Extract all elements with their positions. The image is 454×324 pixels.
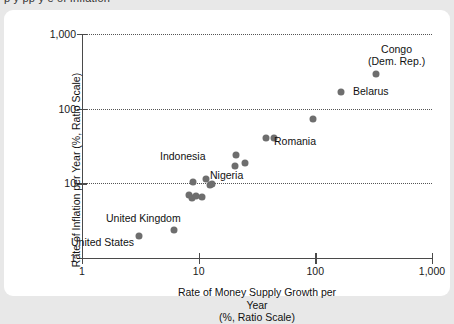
data-point xyxy=(190,178,197,185)
x-axis-title-line1: Rate of Money Supply Growth per Year xyxy=(178,286,336,311)
data-point xyxy=(310,116,317,123)
ytick-label-1: 1 xyxy=(16,252,76,264)
data-point xyxy=(337,88,344,95)
clipped-title: p y pp y e of Inflation xyxy=(0,0,454,6)
x-axis-title-line2: (%, Ratio Scale) xyxy=(170,311,345,324)
point-label-indonesia: Indonesia xyxy=(160,151,206,163)
xtick-label-1000: 1,000 xyxy=(419,265,445,277)
point-label-congo-line1: Congo xyxy=(381,43,412,55)
xtick-mark-1000 xyxy=(432,253,433,264)
data-point xyxy=(233,151,240,158)
ytick-label-1000: 1,000 xyxy=(16,28,76,40)
data-point xyxy=(198,194,205,201)
point-label-belarus: Belarus xyxy=(353,86,389,98)
y-axis-title: Rate of Inflation per Year (%, Ratio Sca… xyxy=(70,73,82,267)
data-point xyxy=(208,180,215,187)
point-label-congo: Congo (Dem. Rep.) xyxy=(368,44,425,67)
ytick-label-100: 100 xyxy=(16,103,76,115)
gridline-100 xyxy=(82,109,432,110)
point-label-nigeria: Nigeria xyxy=(210,170,243,182)
data-point xyxy=(136,232,143,239)
data-point xyxy=(372,70,379,77)
xtick-label-100: 100 xyxy=(307,265,325,277)
ytick-label-10: 10 xyxy=(16,177,76,189)
plot-area: 1,000 100 10 1 1 10 100 1,000 Congo xyxy=(82,34,432,258)
x-axis-title: Rate of Money Supply Growth per Year (%,… xyxy=(170,286,345,324)
chart-card: 1,000 100 10 1 1 10 100 1,000 Congo xyxy=(4,10,450,296)
data-point xyxy=(171,226,178,233)
x-axis-line xyxy=(82,258,432,259)
ytick-mark-1000 xyxy=(77,34,87,35)
xtick-mark-10 xyxy=(199,253,200,264)
clipped-title-text: p y pp y e of Inflation xyxy=(4,0,110,4)
xtick-mark-1 xyxy=(82,253,83,264)
gridline-1000 xyxy=(82,34,432,35)
y-axis-line xyxy=(82,34,83,258)
xtick-mark-100 xyxy=(315,253,316,264)
point-label-romania: Romania xyxy=(274,136,316,148)
point-label-congo-line2: (Dem. Rep.) xyxy=(368,55,425,67)
gridline-10 xyxy=(82,183,432,184)
data-point xyxy=(263,135,270,142)
point-label-united-kingdom: United Kingdom xyxy=(106,213,181,225)
xtick-label-10: 10 xyxy=(193,265,205,277)
data-point xyxy=(242,160,249,167)
